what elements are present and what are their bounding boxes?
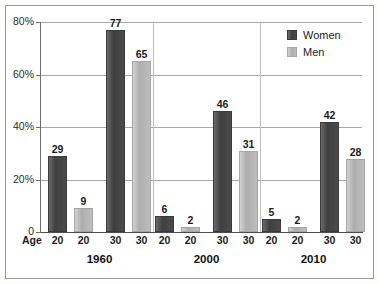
y-tick-label: 80% (0, 16, 34, 27)
bar-women-2010-age30: 42 (320, 122, 339, 232)
bar-women-2000-age20: 6 (155, 216, 174, 232)
category-tick-label: 30 (317, 234, 343, 247)
bar-value-label: 77 (110, 18, 122, 29)
category-tick-label: 20 (152, 234, 178, 247)
group-divider (260, 22, 261, 232)
legend-swatch-women (287, 30, 297, 40)
category-tick-label: 20 (45, 234, 71, 247)
bar-women-1960-age30: 77 (106, 30, 125, 232)
gridline (41, 127, 362, 128)
chart-legend: WomenMen (287, 27, 369, 61)
y-tick-mark (36, 22, 41, 23)
bar-value-label: 65 (136, 49, 148, 60)
bar-value-label: 42 (324, 110, 336, 121)
category-labels: 202030302020303020203030 (0, 234, 379, 248)
category-tick-label: 30 (210, 234, 236, 247)
legend-item-men[interactable]: Men (287, 44, 369, 59)
y-tick-mark (36, 232, 41, 233)
legend-item-women[interactable]: Women (287, 27, 369, 42)
gridline (41, 22, 362, 23)
y-tick-label: 20% (0, 174, 34, 185)
bar-value-label: 2 (295, 215, 301, 226)
y-tick-mark (36, 180, 41, 181)
bar-women-2010-age20: 5 (262, 219, 281, 232)
bar-men-1960-age30: 65 (132, 61, 151, 232)
bar-men-2010-age20: 2 (288, 227, 307, 232)
axis-baseline (39, 232, 363, 233)
bar-women-1960-age20: 29 (48, 156, 67, 232)
legend-swatch-men (287, 47, 297, 57)
bar-value-label: 6 (162, 204, 168, 215)
bar-men-2000-age30: 31 (239, 151, 258, 232)
y-tick-label: 60% (0, 69, 34, 80)
legend-label: Men (303, 46, 324, 58)
y-tick-mark (36, 127, 41, 128)
group-divider (153, 22, 154, 232)
gridline (41, 75, 362, 76)
bar-value-label: 28 (350, 147, 362, 158)
group-labels: 196020002010 (0, 252, 379, 268)
y-tick-mark (36, 75, 41, 76)
chart-figure: 020%40%60%80% 2997765624631524228 Age 20… (0, 0, 379, 284)
bar-value-label: 5 (269, 207, 275, 218)
bar-men-2000-age20: 2 (181, 227, 200, 232)
bar-value-label: 2 (188, 215, 194, 226)
category-tick-label: 20 (71, 234, 97, 247)
category-tick-label: 20 (178, 234, 204, 247)
bar-women-2000-age30: 46 (213, 111, 232, 232)
group-label-2000: 2000 (172, 252, 242, 266)
group-label-1960: 1960 (65, 252, 135, 266)
y-tick-label: 40% (0, 121, 34, 132)
bar-men-2010-age30: 28 (346, 159, 365, 233)
group-label-2010: 2010 (279, 252, 349, 266)
legend-label: Women (303, 29, 341, 41)
bar-men-1960-age20: 9 (74, 208, 93, 232)
bar-value-label: 31 (243, 139, 255, 150)
category-tick-label: 30 (103, 234, 129, 247)
category-tick-label: 30 (343, 234, 369, 247)
bar-value-label: 9 (81, 196, 87, 207)
bar-value-label: 29 (52, 144, 64, 155)
category-tick-label: 20 (259, 234, 285, 247)
bar-value-label: 46 (217, 99, 229, 110)
gridline (41, 180, 362, 181)
category-tick-label: 20 (285, 234, 311, 247)
